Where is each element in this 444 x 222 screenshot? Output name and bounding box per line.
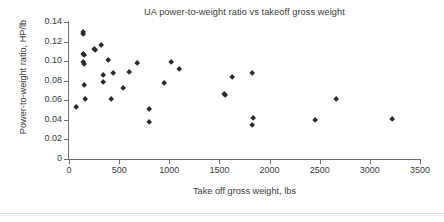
x-axis-line xyxy=(68,159,421,160)
y-tick-label: 0.04 xyxy=(2,114,62,124)
data-point xyxy=(111,70,117,76)
bottom-divider-secondary xyxy=(0,215,444,216)
data-point xyxy=(81,61,87,67)
x-tick-mark xyxy=(320,160,321,164)
data-point xyxy=(312,117,318,123)
data-point xyxy=(389,116,395,122)
y-tick-label: 0 xyxy=(2,153,62,163)
data-point xyxy=(134,60,140,66)
data-point xyxy=(222,92,228,98)
chart-title: UA power-to-weight ratio vs takeoff gros… xyxy=(69,7,420,17)
data-point xyxy=(100,72,106,78)
y-tick-label: 0.02 xyxy=(2,133,62,143)
data-point xyxy=(168,59,174,65)
data-point xyxy=(161,81,167,87)
y-tick-label: 0.14 xyxy=(2,16,62,26)
data-point xyxy=(81,82,87,88)
chart-figure: UA power-to-weight ratio vs takeoff gros… xyxy=(0,0,444,222)
data-point xyxy=(126,69,132,75)
data-point xyxy=(229,74,235,80)
data-point xyxy=(73,104,79,110)
x-tick-mark xyxy=(219,160,220,164)
data-point xyxy=(81,52,87,58)
data-point xyxy=(100,79,106,85)
y-tick-labels: 00.020.040.060.080.100.120.14 xyxy=(0,0,62,222)
data-point xyxy=(249,70,255,76)
x-tick-mark xyxy=(69,160,70,164)
data-point xyxy=(108,96,114,102)
y-axis-title: Power-to-weight ratio, HP/lb xyxy=(18,7,28,147)
data-point xyxy=(146,106,152,112)
data-point xyxy=(333,96,339,102)
x-axis-title: Take off gross weight, lbs xyxy=(69,186,420,196)
data-point xyxy=(121,85,127,91)
x-tick-label: 3500 xyxy=(390,165,444,175)
data-point xyxy=(92,47,98,53)
y-tick-label: 0.06 xyxy=(2,94,62,104)
x-tick-mark xyxy=(119,160,120,164)
plot-area xyxy=(69,22,420,159)
bottom-divider xyxy=(0,213,444,214)
data-point xyxy=(98,42,104,48)
x-tick-mark xyxy=(270,160,271,164)
y-tick-label: 0.08 xyxy=(2,75,62,85)
x-tick-mark xyxy=(169,160,170,164)
data-point xyxy=(105,57,111,63)
data-point xyxy=(82,96,88,102)
data-point xyxy=(250,115,256,121)
y-tick-label: 0.12 xyxy=(2,36,62,46)
y-tick-label: 0.10 xyxy=(2,55,62,65)
x-tick-mark xyxy=(420,160,421,164)
data-point xyxy=(176,66,182,72)
data-point xyxy=(249,122,255,128)
data-point xyxy=(146,119,152,125)
x-tick-mark xyxy=(370,160,371,164)
